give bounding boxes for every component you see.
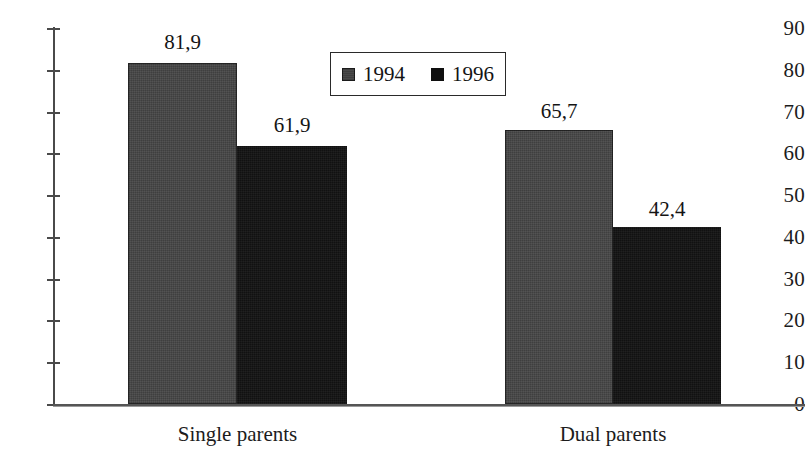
legend: 1994 1996 (330, 52, 506, 96)
series-swatch-1994-icon (342, 68, 355, 81)
bar-single-parents-1994[interactable] (128, 63, 237, 404)
bar-chart: 90 80 70 60 50 40 30 20 10 0 81,9 61,9 6… (0, 0, 805, 468)
legend-label-1996: 1996 (452, 64, 494, 85)
value-label-dual-parents-1994: 65,7 (505, 101, 613, 122)
bar-single-parents-1996[interactable] (237, 146, 347, 404)
value-label-dual-parents-1996: 42,4 (613, 199, 721, 220)
bar-dual-parents-1996[interactable] (613, 227, 721, 404)
value-label-single-parents-1994: 81,9 (128, 32, 237, 53)
legend-label-1994: 1994 (363, 64, 405, 85)
x-category-label-dual-parents: Dual parents (505, 422, 721, 446)
x-category-label-single-parents: Single parents (128, 422, 347, 446)
legend-item-1994[interactable]: 1994 (342, 64, 405, 85)
bar-dual-parents-1994[interactable] (505, 130, 613, 404)
value-label-single-parents-1996: 61,9 (237, 115, 347, 136)
series-swatch-1996-icon (431, 68, 444, 81)
legend-item-1996[interactable]: 1996 (431, 64, 494, 85)
x-axis-line (53, 404, 805, 406)
